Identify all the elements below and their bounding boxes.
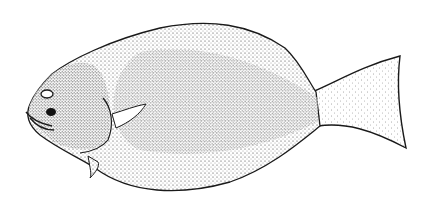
tail-fin [312,56,406,148]
flatfish-illustration [0,0,430,212]
illustration-canvas [0,0,430,212]
eye-upper [41,90,53,98]
eye-lower [46,108,56,116]
